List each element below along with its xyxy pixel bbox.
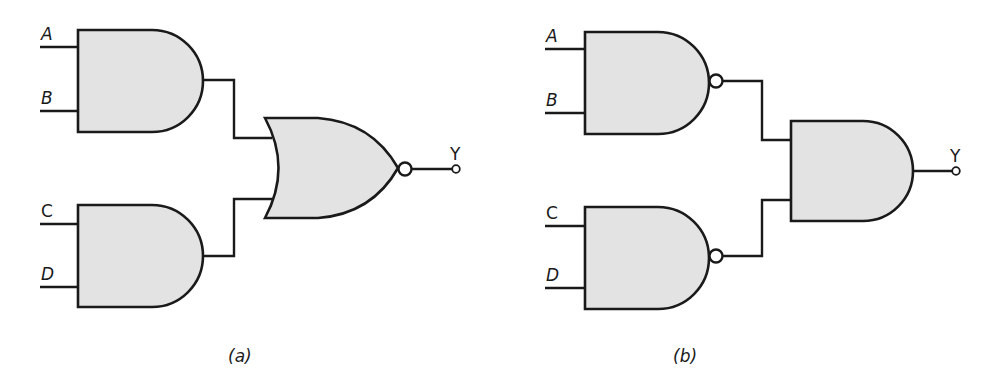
wire-nand2-to-and <box>723 200 791 256</box>
logic-diagram-canvas: A B C D Y (a) A B C D <box>0 0 996 375</box>
and-gate-1 <box>78 30 203 132</box>
wire-and1-to-nor <box>203 80 272 138</box>
label-c: C <box>41 201 53 221</box>
nand-gate-1 <box>585 32 709 134</box>
nand2-inversion-bubble <box>710 250 723 263</box>
label-d: D <box>41 264 54 284</box>
nand1-inversion-bubble <box>710 75 723 88</box>
and-gate-2 <box>78 205 203 307</box>
output-terminal <box>952 167 960 175</box>
caption-b: (b) <box>673 346 697 366</box>
diagram-a: A B C D Y (a) <box>40 24 461 366</box>
diagram-b: A B C D Y (b) <box>545 26 961 366</box>
caption-a: (a) <box>228 346 252 366</box>
label-b: B <box>41 88 53 108</box>
label-y: Y <box>949 146 961 166</box>
wire-nand1-to-and <box>723 81 791 140</box>
label-a: A <box>40 24 53 44</box>
nor-gate <box>265 118 398 218</box>
label-d: D <box>546 265 559 285</box>
label-b: B <box>546 90 558 110</box>
wire-and2-to-nor <box>203 199 272 256</box>
output-terminal <box>452 165 460 173</box>
label-c: C <box>546 203 558 223</box>
label-a: A <box>545 26 558 46</box>
nor-inversion-bubble <box>399 163 412 176</box>
nand-gate-2 <box>585 207 709 309</box>
and-gate-output <box>791 121 913 221</box>
label-y: Y <box>449 144 461 164</box>
